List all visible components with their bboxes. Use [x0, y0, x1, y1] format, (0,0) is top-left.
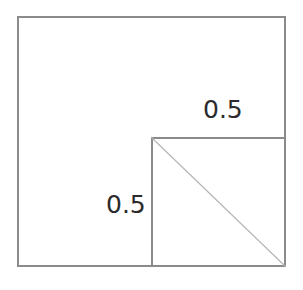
- dimension-label-left: 0.5: [106, 192, 146, 217]
- inner-square-diagonal: [151, 137, 286, 267]
- inner-square-diagonal-svg: [151, 137, 286, 267]
- dimension-label-top: 0.5: [203, 97, 243, 122]
- figure-canvas: 0.5 0.5: [0, 0, 303, 290]
